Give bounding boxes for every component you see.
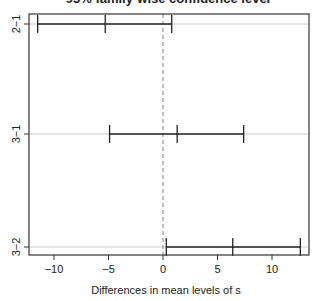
- y-tick-label: 3−2: [10, 238, 22, 257]
- interval-3-1: [110, 125, 244, 143]
- x-tick-label: −5: [102, 263, 115, 275]
- x-tick-label: −10: [45, 263, 64, 275]
- interval-2-1: [38, 15, 172, 33]
- x-tick-label: 0: [160, 263, 166, 275]
- confidence-intervals: [38, 15, 301, 256]
- x-axis: −10−50510: [45, 255, 278, 275]
- chart-title: 95% family-wise confidence level: [66, 0, 270, 6]
- y-axis: 2−13−13−2: [10, 15, 29, 257]
- x-tick-label: 5: [214, 263, 220, 275]
- x-tick-label: 10: [266, 263, 278, 275]
- x-axis-title: Differences in mean levels of s: [91, 284, 241, 296]
- y-tick-label: 3−1: [10, 125, 22, 144]
- grid-lines: [29, 24, 309, 247]
- interval-3-2: [166, 238, 300, 256]
- y-tick-label: 2−1: [10, 15, 22, 34]
- tukey-hsd-chart: 95% family-wise confidence level −10−505…: [0, 0, 319, 301]
